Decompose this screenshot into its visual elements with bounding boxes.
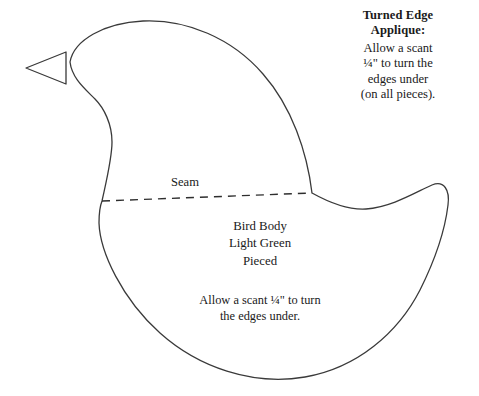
beak-icon [26,52,66,84]
seam-dashed-line [102,193,312,201]
bird-body-label-line-2: Light Green [180,235,340,252]
bird-body-label-line-1: Bird Body [180,218,340,235]
pattern-sheet: Turned Edge Applique: Allow a scant ¼" t… [0,0,479,396]
body-note-line-1: Allow a scant ¼" to turn [160,292,360,308]
side-note-heading-line-2: Applique: [322,23,474,38]
side-note-body: Allow a scant ¼" to turn the edges under… [322,41,474,103]
side-note-heading: Turned Edge Applique: [322,8,474,38]
side-note-heading-line-1: Turned Edge [322,8,474,23]
seam-label: Seam [150,175,220,190]
bird-body-label-line-3: Pieced [180,253,340,270]
body-note-line-2: the edges under. [160,308,360,324]
turned-edge-applique-note: Turned Edge Applique: Allow a scant ¼" t… [322,8,474,103]
side-note-body-line-4: (on all pieces). [322,87,474,103]
side-note-body-line-2: ¼" to turn the [322,56,474,72]
bird-body-seam-allowance-note: Allow a scant ¼" to turn the edges under… [160,292,360,324]
bird-body-label: Bird Body Light Green Pieced [180,218,340,270]
side-note-body-line-1: Allow a scant [322,41,474,57]
side-note-body-line-3: edges under [322,72,474,88]
